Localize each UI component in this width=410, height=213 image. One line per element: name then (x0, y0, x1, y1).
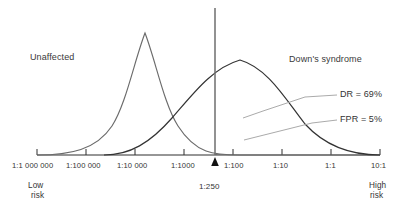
x-tick-label-0: 1:1 000 000 (12, 161, 53, 171)
dr-leader-line (243, 95, 337, 118)
x-tick-label-6: 1:1 (325, 161, 336, 171)
curve-downs-syndrome (104, 60, 380, 155)
curve-unaffected (37, 33, 380, 155)
curve-label-unaffected: Unaffected (30, 52, 74, 62)
x-tick-label-4: 1:100 (224, 161, 244, 171)
cutoff-value-label: 1:250 (199, 182, 220, 192)
x-tick-label-5: 1:10 (273, 161, 288, 171)
low-risk-label-line1: Low (28, 181, 43, 192)
x-tick-label-3: 1:1000 (171, 161, 195, 171)
risk-distribution-figure: Unaffected Down's syndrome DR = 69% FPR … (0, 0, 410, 213)
annotation-detection-rate: DR = 69% (340, 89, 382, 99)
annotation-false-positive-rate: FPR = 5% (340, 114, 382, 124)
curve-label-downs-syndrome: Down's syndrome (289, 54, 362, 64)
x-tick-label-2: 1:10 000 (117, 161, 147, 171)
x-tick-label-7: 10:1 (371, 161, 386, 171)
fpr-shaded-area (37, 33, 380, 155)
x-tick-label-1: 1:100 000 (66, 161, 101, 171)
fpr-leader-line (244, 120, 337, 140)
high-risk-label-line2: risk (370, 191, 383, 202)
low-risk-label-line2: risk (31, 191, 44, 202)
cutoff-triangle-marker (211, 157, 219, 166)
high-risk-label-line1: High (369, 181, 386, 192)
